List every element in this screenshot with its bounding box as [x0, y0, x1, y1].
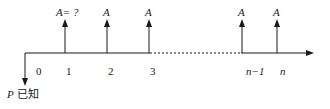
annuity-label: A= ? [55, 6, 79, 18]
annuity-label: A [102, 6, 110, 18]
period-tick-label: 3 [150, 65, 156, 77]
period-tick-label: n [280, 65, 286, 77]
period-tick-label: n−1 [246, 65, 264, 77]
period-tick-label: 2 [108, 65, 114, 77]
period-tick-label: 1 [66, 65, 72, 77]
period-tick-label: 0 [36, 65, 42, 77]
present-value-label: P已知 [6, 87, 39, 100]
annuity-label: A [237, 6, 245, 18]
annuity-arrows [65, 23, 277, 53]
annuity-label: A [144, 6, 152, 18]
annuity-label: A [272, 6, 280, 18]
cash-flow-diagram: P已知 A= ? A A A A 0 1 2 3 n−1 n [0, 0, 330, 109]
